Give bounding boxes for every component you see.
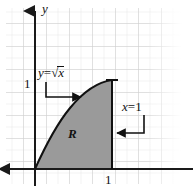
math-figure: y 1 1 y=√x x=1 R — [0, 0, 193, 191]
x-axis-tick-label-1: 1 — [105, 173, 112, 186]
y-axis-tick-label-1: 1 — [24, 77, 31, 90]
vline-equation-label: x=1 — [122, 100, 142, 113]
sqrt-overbar — [57, 66, 64, 67]
region-label-R: R — [68, 127, 77, 140]
y-axis-label: y — [42, 2, 48, 15]
sqrt-radicand: x — [58, 65, 64, 80]
vline-label-rhs: 1 — [135, 99, 142, 114]
sqrt-radical: √x — [51, 65, 64, 79]
curve-equation-label: y=√x — [38, 65, 64, 79]
curve-label-equals: = — [44, 65, 51, 80]
figure-canvas — [0, 0, 193, 191]
